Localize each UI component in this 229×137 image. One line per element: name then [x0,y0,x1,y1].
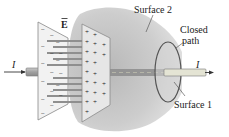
capacitor-ampere-surface-diagram: − − − − − − − − − − − − − − − − − + + + … [0,0,229,137]
svg-text:−: − [50,69,54,77]
svg-text:+: + [93,49,97,57]
svg-text:−: − [41,43,45,51]
svg-text:+: + [93,98,97,106]
svg-text:−: − [56,57,60,65]
label-closed-path-1: Closed [180,24,208,35]
wire-right-outer [164,69,206,76]
svg-text:−: − [56,82,60,90]
svg-text:−: − [41,96,45,104]
svg-text:+: + [93,31,97,39]
arrowhead-right [209,71,214,75]
svg-text:+: + [85,98,89,106]
svg-text:+: + [102,51,106,59]
svg-text:−: − [50,102,54,110]
svg-text:+: + [102,80,106,88]
label-field-e: E [61,19,68,30]
svg-text:+: + [85,78,89,86]
svg-text:−: − [50,88,54,96]
svg-text:−: − [41,110,45,118]
svg-text:+: + [102,41,106,49]
svg-text:+: + [85,58,89,66]
svg-text:+: + [93,79,97,87]
svg-text:+: + [102,90,106,98]
svg-text:+: + [93,89,97,97]
svg-text:+: + [85,88,89,96]
svg-text:−: − [41,78,45,86]
label-closed-path-2: path [182,35,199,46]
svg-text:−: − [50,50,54,58]
svg-text:+: + [85,38,89,46]
svg-text:+: + [85,28,89,36]
arrowhead-left [21,70,26,74]
svg-text:+: + [93,59,97,67]
svg-text:−: − [41,60,45,68]
svg-text:+: + [93,70,97,78]
label-surface-2: Surface 2 [134,4,172,15]
svg-text:+: + [85,48,89,56]
svg-text:+: + [93,40,97,48]
svg-text:−: − [50,32,54,40]
label-current-right: I [195,59,200,70]
svg-text:−: − [56,39,60,47]
svg-text:−: − [41,26,45,34]
label-current-left: I [11,59,16,70]
svg-text:−: − [59,92,63,100]
svg-text:+: + [85,108,89,116]
label-surface-1: Surface 1 [174,99,212,110]
svg-text:−: − [59,70,63,78]
svg-text:+: + [85,68,89,76]
